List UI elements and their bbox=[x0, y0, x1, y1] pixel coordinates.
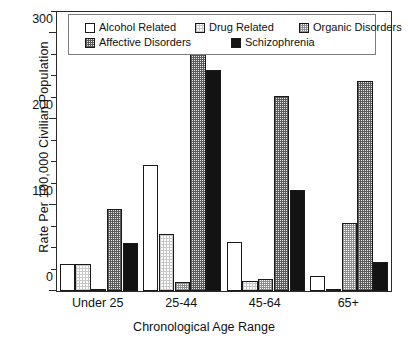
y-axis-tick-label: 200 bbox=[32, 98, 53, 112]
bar-drug-related bbox=[159, 234, 174, 291]
x-axis-tick-label: 65+ bbox=[338, 296, 359, 310]
bar-organic-disorders bbox=[258, 279, 273, 291]
legend-item-drug-related: Drug Related bbox=[195, 22, 274, 33]
x-axis-title: Chronological Age Range bbox=[0, 320, 408, 334]
legend: Alcohol RelatedDrug RelatedOrganic Disor… bbox=[68, 14, 376, 55]
legend-row-1: Alcohol RelatedDrug RelatedOrganic Disor… bbox=[77, 20, 369, 35]
bar-affective-disorders bbox=[190, 33, 205, 291]
legend-item-organic-disorders: Organic Disorders bbox=[299, 22, 402, 33]
legend-label: Drug Related bbox=[209, 22, 274, 33]
legend-swatch-icon bbox=[195, 23, 205, 33]
bar-affective-disorders bbox=[107, 209, 122, 291]
bar-schizophrenia bbox=[123, 243, 138, 291]
x-axis-tick-label: 25-44 bbox=[165, 296, 197, 310]
legend-swatch-icon bbox=[231, 38, 241, 48]
legend-swatch-icon bbox=[85, 38, 95, 48]
bar-affective-disorders bbox=[274, 96, 289, 291]
bar-alcohol-related bbox=[60, 264, 75, 291]
y-axis-major-tick bbox=[49, 290, 57, 291]
bar-drug-related bbox=[75, 264, 90, 291]
bar-schizophrenia bbox=[206, 70, 221, 291]
bar-alcohol-related bbox=[143, 165, 158, 291]
legend-swatch-icon bbox=[85, 23, 95, 33]
bar-chart: Rate Per 100,000 Civilian Population 010… bbox=[0, 0, 408, 347]
legend-item-schizophrenia: Schizophrenia bbox=[231, 37, 315, 48]
y-axis-major-tick bbox=[49, 118, 57, 119]
y-axis-title: Rate Per 100,000 Civilian Population bbox=[37, 7, 51, 287]
bar-organic-disorders bbox=[175, 282, 190, 291]
legend-row-2: Affective DisordersSchizophrenia bbox=[77, 35, 369, 50]
bar-drug-related bbox=[326, 289, 341, 291]
bar-organic-disorders bbox=[91, 289, 106, 291]
bar-alcohol-related bbox=[310, 276, 325, 291]
x-axis-tick-label: 45-64 bbox=[249, 296, 281, 310]
y-axis-major-tick bbox=[49, 204, 57, 205]
bar-alcohol-related bbox=[227, 242, 242, 291]
bar-drug-related bbox=[242, 281, 257, 291]
legend-label: Organic Disorders bbox=[313, 22, 402, 33]
legend-item-alcohol-related: Alcohol Related bbox=[85, 22, 176, 33]
legend-item-affective-disorders: Affective Disorders bbox=[85, 37, 191, 48]
y-axis-major-tick bbox=[49, 32, 57, 33]
x-axis-tick-label: Under 25 bbox=[72, 296, 123, 310]
y-axis-tick-label: 100 bbox=[32, 184, 53, 198]
y-axis-tick-label: 0 bbox=[46, 270, 53, 284]
legend-label: Schizophrenia bbox=[245, 37, 315, 48]
bar-organic-disorders bbox=[342, 223, 357, 291]
bar-schizophrenia bbox=[373, 262, 388, 291]
legend-label: Affective Disorders bbox=[99, 37, 191, 48]
bar-schizophrenia bbox=[290, 190, 305, 291]
legend-swatch-icon bbox=[299, 23, 309, 33]
legend-label: Alcohol Related bbox=[99, 22, 176, 33]
bar-affective-disorders bbox=[357, 81, 372, 291]
y-axis-tick-label: 300 bbox=[32, 12, 53, 26]
